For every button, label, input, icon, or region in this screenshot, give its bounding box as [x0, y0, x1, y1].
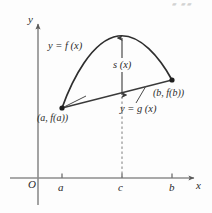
chord-label-g: y = g (x) [120, 104, 157, 115]
endpoint-marker-b [169, 77, 174, 82]
x-tick-label-b: b [169, 182, 175, 193]
x-tick-label-a: a [58, 182, 64, 193]
origin-label: O [28, 179, 36, 190]
gap-label-s: s (x) [113, 60, 131, 71]
point-label-a: (a, f(a)) [37, 113, 68, 123]
curve-label-f: y = f (x) [48, 41, 82, 52]
endpoint-marker-a [59, 105, 64, 110]
x-tick-label-c: c [118, 182, 123, 193]
y-axis-label: y [28, 14, 33, 25]
point-label-b: (b, f(b)) [153, 88, 184, 98]
figure-container: ▰ ▰▰ [0, 0, 212, 213]
x-axis-label: x [196, 180, 201, 191]
